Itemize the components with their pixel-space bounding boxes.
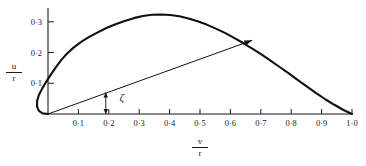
hodograph-curve [37,14,352,114]
x-axis-label-numerator: v [192,137,208,146]
hodograph-figure: 0·10·20·30·40·50·60·70·80·91·0 0·10·20·3… [0,0,366,166]
y-tick-label: 0·2 [31,48,42,58]
angle-indicator-arrowhead-down [104,109,108,114]
x-tick-label: 1·0 [346,118,357,128]
x-tick-label: 0·2 [103,118,114,128]
x-axis-label-denominator: r [192,149,208,158]
y-tick-label: 0·3 [31,17,42,27]
zeta-angle-label: ζ [119,91,125,104]
x-tick-label: 0·6 [225,118,236,128]
x-tick-label: 0·5 [194,118,205,128]
x-tick-label: 0·9 [316,118,327,128]
x-tick-label: 0·7 [255,118,266,128]
y-axis-label-denominator: r [6,74,22,83]
x-tick-label: 0·3 [134,118,145,128]
x-axis-label: v r [192,137,208,158]
chart-canvas: 0·10·20·30·40·50·60·70·80·91·0 0·10·20·3… [0,0,366,166]
x-axis-tick-labels: 0·10·20·30·40·50·60·70·80·91·0 [73,118,358,128]
y-axis-tick-labels: 0·10·20·3 [31,17,42,88]
resultant-vector-line [48,40,252,114]
y-axis-label-numerator: u [6,62,22,71]
x-tick-label: 0·1 [73,118,84,128]
y-tick-label: 0·1 [31,78,42,88]
y-axis-label: u r [6,62,22,83]
x-tick-label: 0·4 [164,118,176,128]
x-tick-label: 0·8 [286,118,297,128]
x-axis-ticks [78,109,352,114]
